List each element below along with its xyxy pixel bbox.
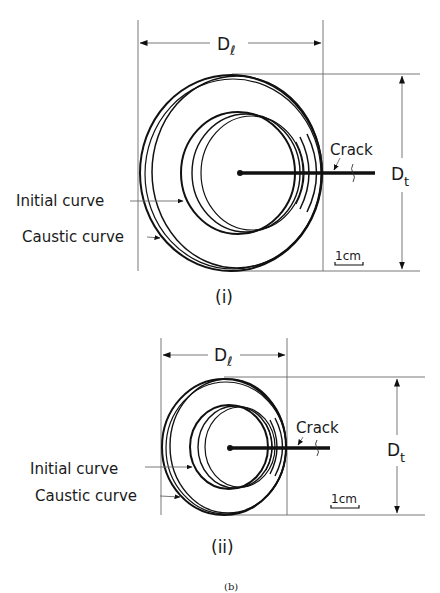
dl-label: Dℓ (214, 345, 232, 369)
caustic-curve-label: Caustic curve (22, 228, 124, 246)
caustic-curve-arrow (160, 496, 180, 497)
initial-curve-label: Initial curve (30, 460, 118, 478)
crack-label-arrow (298, 437, 303, 445)
caustic-diagram: Dℓ Dt Crack (0, 0, 440, 593)
dt-label: Dt (387, 440, 405, 465)
crack-origin-dot (237, 170, 243, 176)
caustic-curve-arrow (147, 237, 160, 238)
crack-label-arrow (334, 158, 340, 170)
panel-i: Dℓ Dt Crack (16, 20, 420, 307)
crack-label: Crack (330, 141, 373, 159)
panel-i-label: (i) (215, 287, 233, 307)
crack-origin-dot (227, 445, 233, 451)
scale-label: 1cm (335, 249, 361, 263)
caustic-curve-label: Caustic curve (35, 487, 137, 505)
initial-curve-label: Initial curve (16, 192, 104, 210)
panel-ii-label: (ii) (211, 537, 234, 557)
panel-ii: Dℓ Dt Crack Initial curve Caustic cu (30, 338, 425, 557)
dl-label: Dℓ (217, 34, 235, 58)
dt-label: Dt (391, 164, 409, 189)
scale-label: 1cm (331, 492, 357, 506)
crack-label: Crack (296, 419, 339, 437)
figure-caption: (b) (224, 581, 238, 592)
